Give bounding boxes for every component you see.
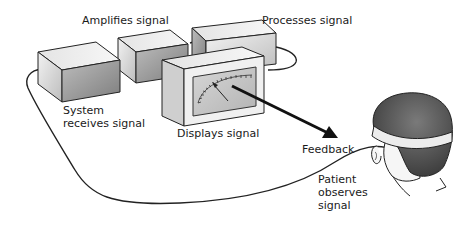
receiver-box — [38, 42, 120, 102]
label-displays-signal: Displays signal — [177, 127, 259, 140]
label-system-receives-line1: System — [63, 104, 104, 117]
label-system-receives-line2: receives signal — [63, 117, 145, 130]
label-processes-signal: Processes signal — [262, 14, 352, 27]
label-patient-line3: signal — [318, 199, 351, 212]
label-feedback: Feedback — [302, 143, 354, 156]
label-patient-line2: observes — [318, 186, 368, 199]
display-box — [162, 47, 264, 126]
patient-head — [372, 93, 453, 196]
label-amplifies-signal: Amplifies signal — [82, 14, 169, 27]
label-patient-line1: Patient — [318, 173, 356, 186]
biofeedback-diagram: Amplifies signal Processes signal System… — [0, 0, 461, 228]
